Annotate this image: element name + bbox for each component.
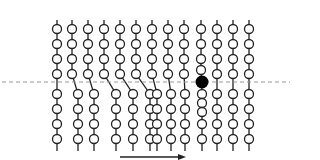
- bead: [74, 135, 83, 144]
- bead: [197, 25, 206, 34]
- bead: [129, 90, 138, 99]
- bead: [164, 70, 173, 79]
- bead: [68, 70, 77, 79]
- bead: [100, 25, 109, 34]
- bead: [53, 40, 62, 49]
- bead: [90, 90, 99, 99]
- bead: [53, 70, 62, 79]
- bead: [213, 90, 222, 99]
- bead: [198, 90, 207, 99]
- bead: [53, 55, 62, 64]
- bead: [245, 135, 254, 144]
- bead: [164, 25, 173, 34]
- bead: [180, 70, 189, 79]
- bead: [181, 105, 190, 114]
- bead: [153, 90, 162, 99]
- bead: [229, 135, 238, 144]
- bead: [68, 40, 77, 49]
- bead: [197, 40, 206, 49]
- bead: [245, 25, 254, 34]
- bead: [153, 120, 162, 129]
- bead: [167, 120, 176, 129]
- bead: [213, 55, 222, 64]
- bead: [129, 135, 138, 144]
- bead: [116, 70, 125, 79]
- bead-chain: [68, 20, 83, 151]
- bead: [229, 70, 238, 79]
- bead: [245, 90, 254, 99]
- bead: [129, 120, 138, 129]
- bead: [198, 135, 207, 144]
- bead: [100, 70, 109, 79]
- bead: [181, 135, 190, 144]
- bead: [84, 70, 93, 79]
- bead: [153, 135, 162, 144]
- bead-chains: [53, 20, 254, 151]
- bead: [229, 40, 238, 49]
- bead: [229, 105, 238, 114]
- bead: [132, 25, 141, 34]
- bead: [229, 25, 238, 34]
- pinning-particle: [196, 76, 209, 89]
- bead: [167, 135, 176, 144]
- bead: [213, 120, 222, 129]
- bead: [229, 55, 238, 64]
- bead: [198, 108, 207, 117]
- bead: [164, 40, 173, 49]
- bead: [148, 40, 157, 49]
- bead: [112, 120, 121, 129]
- bead: [90, 105, 99, 114]
- bead: [74, 120, 83, 129]
- bead: [132, 70, 141, 79]
- bead: [53, 90, 62, 99]
- bead: [112, 105, 121, 114]
- bead-chain: [213, 20, 222, 151]
- bead: [229, 90, 238, 99]
- bead: [245, 120, 254, 129]
- bead: [167, 90, 176, 99]
- bead: [132, 55, 141, 64]
- bead-chain: [84, 20, 99, 151]
- bead: [116, 55, 125, 64]
- bead: [68, 25, 77, 34]
- bead: [68, 55, 77, 64]
- bead: [213, 105, 222, 114]
- bead: [213, 25, 222, 34]
- bead: [84, 25, 93, 34]
- bead: [180, 25, 189, 34]
- bead: [229, 120, 238, 129]
- bead-chain: [245, 20, 254, 151]
- bead-chain: [229, 20, 238, 151]
- bead: [84, 40, 93, 49]
- bead: [198, 99, 207, 108]
- bead: [197, 55, 206, 64]
- bead: [116, 25, 125, 34]
- bead: [181, 120, 190, 129]
- bead: [213, 70, 222, 79]
- bead: [180, 40, 189, 49]
- bead: [112, 135, 121, 144]
- bead: [181, 90, 190, 99]
- bead: [74, 105, 83, 114]
- bead: [213, 40, 222, 49]
- bead: [90, 120, 99, 129]
- bead: [132, 40, 141, 49]
- bead: [129, 105, 138, 114]
- bead: [53, 25, 62, 34]
- bead: [148, 55, 157, 64]
- bead-chain: [53, 20, 62, 151]
- bead: [164, 55, 173, 64]
- bead: [167, 105, 176, 114]
- bead: [245, 70, 254, 79]
- bead: [245, 55, 254, 64]
- bead: [245, 40, 254, 49]
- bead: [197, 66, 206, 75]
- bead: [245, 105, 254, 114]
- bead: [116, 40, 125, 49]
- bead: [148, 25, 157, 34]
- bead: [180, 55, 189, 64]
- direction-arrow: [120, 154, 186, 160]
- bead-chain: [180, 20, 190, 151]
- bead: [90, 135, 99, 144]
- bead: [198, 120, 207, 129]
